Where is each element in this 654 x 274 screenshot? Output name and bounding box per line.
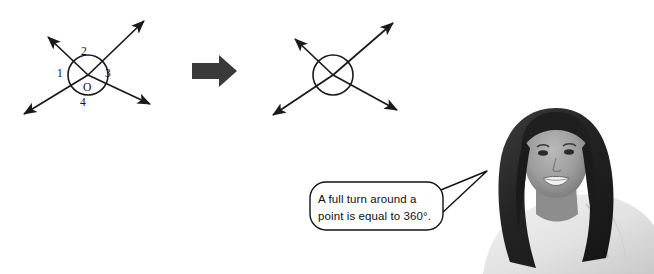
vector-layer <box>0 0 654 274</box>
diagram-right <box>273 23 397 115</box>
angle-label-4: 4 <box>80 97 86 109</box>
diagram-left <box>24 21 150 114</box>
ray-lower-left <box>24 75 88 114</box>
speech-bubble-line-2: point is equal to 360°. <box>318 208 450 225</box>
speech-bubble-line-1: A full turn around a <box>318 191 450 208</box>
angle-label-3: 3 <box>105 68 111 80</box>
speech-bubble-text: A full turn around a point is equal to 3… <box>318 191 450 225</box>
ray-lower-left <box>273 75 333 115</box>
angle-label-2: 2 <box>81 46 87 58</box>
angle-label-1: 1 <box>57 68 63 80</box>
ray-upper-right <box>88 21 144 75</box>
center-point-label-o: O <box>83 82 91 94</box>
photo-eye-right <box>564 149 574 155</box>
photo-eye-left <box>538 150 548 156</box>
ray-upper-right <box>333 23 393 75</box>
ray-lower-right <box>88 75 150 104</box>
transition-arrow-right <box>192 55 237 87</box>
illustration-canvas: 1 2 3 4 O A full turn around a point is … <box>0 0 654 274</box>
student-photo <box>483 108 654 274</box>
